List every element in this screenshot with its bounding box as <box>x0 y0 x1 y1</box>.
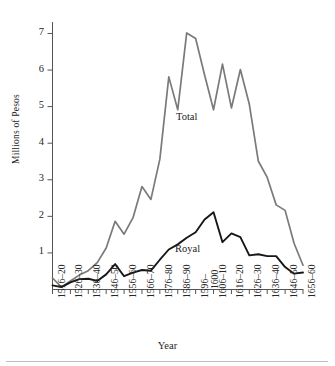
x-axis-title: Year <box>0 340 335 351</box>
y-axis-ticks <box>48 33 53 252</box>
plot-area <box>0 0 335 366</box>
bottom-divider <box>6 361 328 362</box>
series-label-total: Total <box>176 111 197 122</box>
chart-container: Millions of Pesos 1234567 1516–201526–30… <box>0 0 335 366</box>
series-label-royal: Royal <box>175 243 200 254</box>
